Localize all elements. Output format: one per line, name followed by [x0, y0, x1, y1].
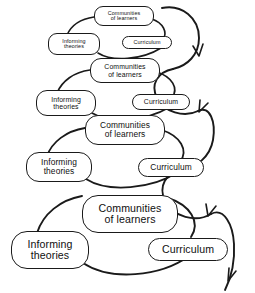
tier-1-informing-theories-node[interactable]: Informing theories [48, 33, 100, 55]
tier-1-informing-line2: theories [64, 44, 84, 50]
tier-3-informing-line2: theories [44, 167, 75, 176]
tier-3-communities-of-learners-node[interactable]: Communities of learners [85, 115, 165, 145]
tier-1-communities-line2: of learners [111, 16, 138, 22]
tier-1-communities-of-learners-node[interactable]: Communities of learners [94, 6, 154, 26]
tier-1-curriculum-label: Curriculum [133, 40, 160, 46]
tier-3-curriculum-node[interactable]: Curriculum [138, 158, 204, 177]
spiral-diagram: .ln{fill:none;stroke:#1a1a1a;stroke-line… [0, 0, 255, 293]
tier-2-communities-line2: of learners [108, 71, 142, 78]
tier-3-informing-theories-node[interactable]: Informing theories [26, 152, 92, 182]
tier-3-curriculum-label: Curriculum [150, 163, 192, 172]
tier-2-curriculum-label: Curriculum [144, 98, 178, 105]
tier-2-curriculum-node[interactable]: Curriculum [132, 94, 190, 110]
tier-1-curriculum-node[interactable]: Curriculum [122, 36, 172, 49]
tier-2-communities-of-learners-node[interactable]: Communities of learners [90, 58, 160, 83]
tier-4-communities-of-learners-node[interactable]: Communities of learners [82, 195, 178, 233]
tier-2-communities-line1: Communities [104, 63, 145, 70]
tier-4-informing-line2: theories [31, 250, 70, 261]
tier-4-informing-theories-node[interactable]: Informing theories [11, 231, 89, 269]
tier-4-curriculum-label: Curriculum [162, 244, 214, 255]
tier-2-informing-theories-node[interactable]: Informing theories [36, 90, 96, 116]
tier-2-informing-line2: theories [53, 103, 78, 110]
tier-4-curriculum-node[interactable]: Curriculum [148, 238, 228, 261]
tier-3-communities-line2: of learners [105, 130, 146, 139]
tier-4-communities-line2: of learners [104, 214, 155, 225]
tier-2-informing-line1: Informing [51, 96, 81, 103]
